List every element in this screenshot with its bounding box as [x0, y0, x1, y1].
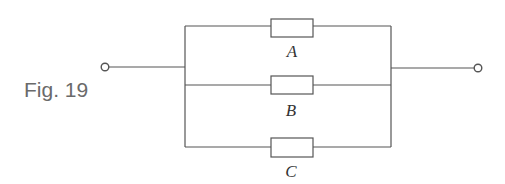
branch-c: C [185, 138, 391, 181]
resistor-c-icon [271, 138, 313, 157]
right-terminal-icon [474, 64, 482, 72]
left-terminal-icon [101, 63, 109, 71]
resistor-b-label: B [286, 101, 297, 120]
resistor-c-label: C [285, 162, 297, 181]
figure-caption: Fig. 19 [24, 78, 88, 101]
resistor-a-label: A [286, 42, 298, 61]
parallel-circuit-diagram: Fig. 19 A B C [0, 0, 505, 184]
resistor-a-icon [271, 19, 313, 37]
branch-b: B [185, 76, 391, 120]
resistor-b-icon [271, 76, 313, 94]
branch-a: A [185, 19, 391, 61]
